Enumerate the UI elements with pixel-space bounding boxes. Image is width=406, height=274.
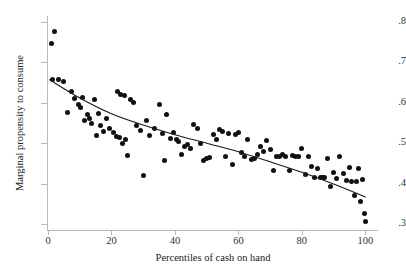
y-tick-mark <box>41 184 47 185</box>
data-point <box>268 147 273 152</box>
data-point <box>211 132 216 137</box>
data-point <box>271 168 276 173</box>
data-point <box>356 166 361 171</box>
data-point <box>303 172 308 177</box>
data-point <box>160 131 165 136</box>
x-tick-label: 100 <box>345 236 385 247</box>
y-tick-label: .3 <box>380 218 406 229</box>
data-point <box>362 211 367 216</box>
data-point <box>89 121 94 126</box>
data-point <box>198 141 203 146</box>
y-tick-mark <box>41 224 47 225</box>
data-point <box>176 139 181 144</box>
data-point <box>352 193 357 198</box>
data-point <box>56 77 61 82</box>
data-point <box>347 165 352 170</box>
data-point <box>98 123 103 128</box>
data-point <box>94 133 99 138</box>
data-point <box>78 105 83 110</box>
data-point <box>309 164 314 169</box>
data-point <box>363 219 368 224</box>
data-point <box>157 102 162 107</box>
data-point <box>168 136 173 141</box>
data-point <box>331 170 336 175</box>
data-point <box>344 178 349 183</box>
data-point <box>101 129 106 134</box>
data-point <box>188 146 193 151</box>
y-tick-mark <box>41 62 47 63</box>
data-point <box>125 153 130 158</box>
plot-area <box>48 16 378 230</box>
data-point <box>138 128 143 133</box>
data-point <box>283 154 288 159</box>
scatter-plot-figure: .3.4.5.6.7.8 020406080100 Marginal prope… <box>0 0 406 274</box>
data-point <box>122 93 127 98</box>
data-point <box>299 146 304 151</box>
data-point <box>255 152 260 157</box>
data-point <box>65 110 70 115</box>
data-point <box>245 137 250 142</box>
data-point <box>325 156 330 161</box>
data-point <box>195 126 200 131</box>
y-tick-label: .6 <box>380 97 406 108</box>
data-point <box>220 129 225 134</box>
x-tick-label: 20 <box>91 236 131 247</box>
data-point <box>141 173 146 178</box>
data-point <box>214 137 219 142</box>
data-point <box>80 95 85 100</box>
y-axis-title: Marginal propensity to consume <box>14 16 28 230</box>
data-point <box>306 154 311 159</box>
y-tick-label: .7 <box>380 56 406 67</box>
y-tick-label: .5 <box>380 137 406 148</box>
data-point <box>92 97 97 102</box>
data-point <box>223 154 228 159</box>
data-point <box>123 137 128 142</box>
data-point <box>134 123 139 128</box>
data-point <box>236 130 241 135</box>
data-point <box>328 184 333 189</box>
data-point <box>322 175 327 180</box>
data-point <box>312 175 317 180</box>
data-point <box>264 138 269 143</box>
data-point <box>117 135 122 140</box>
data-point <box>162 158 167 163</box>
x-tick-label: 0 <box>28 236 68 247</box>
data-point <box>242 154 247 159</box>
data-point <box>354 179 359 184</box>
y-tick-mark <box>41 103 47 104</box>
data-point <box>287 168 292 173</box>
data-point <box>207 155 212 160</box>
data-point <box>315 166 320 171</box>
data-point <box>147 133 152 138</box>
data-point <box>226 131 231 136</box>
data-point <box>61 79 66 84</box>
x-axis-line <box>47 230 378 231</box>
data-point <box>104 116 109 121</box>
data-point <box>72 96 77 101</box>
data-point <box>230 162 235 167</box>
data-point <box>152 126 157 131</box>
data-point <box>131 100 136 105</box>
data-point <box>179 152 184 157</box>
x-tick-label: 60 <box>218 236 258 247</box>
data-point <box>341 171 346 176</box>
y-tick-label: .8 <box>380 16 406 27</box>
data-point <box>334 176 339 181</box>
data-point <box>144 118 149 123</box>
data-point <box>358 199 363 204</box>
data-point <box>96 111 101 116</box>
data-point <box>360 177 365 182</box>
y-tick-label: .4 <box>380 178 406 189</box>
data-point <box>337 154 342 159</box>
y-tick-mark <box>41 143 47 144</box>
data-point <box>52 29 57 34</box>
data-point <box>296 154 301 159</box>
data-point <box>50 77 55 82</box>
data-point <box>171 130 176 135</box>
data-point <box>49 41 54 46</box>
x-axis-title: Percentiles of cash on hand <box>48 252 378 263</box>
x-tick-label: 40 <box>155 236 195 247</box>
x-tick-label: 80 <box>282 236 322 247</box>
data-point <box>69 89 74 94</box>
data-point <box>261 149 266 154</box>
